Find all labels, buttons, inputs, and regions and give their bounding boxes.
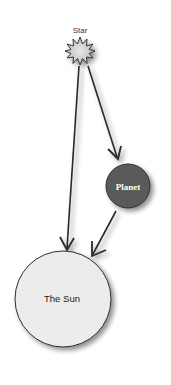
sun-label: The Sun [44,293,80,304]
star-label: Star [73,26,88,35]
arrow-planet-to-sun [92,211,116,256]
arrow-star-to-planet [88,66,121,159]
star-icon [65,37,95,65]
gravity-diagram: Star Planet The Sun [0,0,171,385]
planet-label: Planet [116,182,141,192]
arrow-star-to-sun [60,66,79,250]
